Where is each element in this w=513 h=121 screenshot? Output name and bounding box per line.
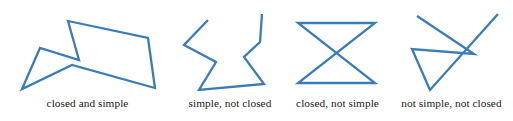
shape-simple-not-closed bbox=[184, 14, 264, 90]
caption-closed-not-simple: closed, not simple bbox=[285, 96, 390, 110]
caption-closed-and-simple: closed and simple bbox=[0, 96, 175, 110]
shape-closed-not-simple bbox=[298, 23, 375, 83]
caption-simple-not-closed: simple, not closed bbox=[175, 96, 285, 110]
polygon-classification-figure: closed and simple simple, not closed clo… bbox=[0, 0, 513, 121]
caption-not-simple-not-closed: not simple, not closed bbox=[390, 96, 513, 110]
captions-row: closed and simple simple, not closed clo… bbox=[0, 96, 513, 121]
shape-closed-and-simple bbox=[22, 21, 155, 89]
shape-not-simple-not-closed bbox=[412, 14, 498, 90]
